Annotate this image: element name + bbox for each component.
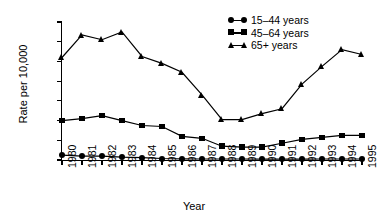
data-point-triangle	[258, 110, 264, 116]
data-point-square	[119, 118, 125, 124]
data-point-square	[199, 136, 205, 142]
legend-item: 45–64 years	[228, 27, 309, 40]
data-point-triangle	[158, 60, 164, 66]
legend-label: 65+ years	[251, 39, 297, 52]
legend-item: 65+ years	[228, 39, 309, 52]
data-point-circle	[219, 156, 225, 162]
data-point-square	[319, 135, 325, 141]
legend-marker-circle-icon	[228, 15, 247, 25]
data-point-circle	[139, 155, 145, 161]
chart-figure: Rate per 10,000 Year 020406080100120140 …	[0, 0, 388, 221]
y-axis-title: Rate per 10,000	[17, 9, 29, 159]
data-point-square	[239, 144, 245, 150]
data-point-square	[259, 144, 265, 150]
data-point-triangle	[278, 105, 284, 111]
data-point-triangle	[338, 46, 344, 52]
data-point-circle	[159, 156, 165, 162]
data-point-triangle	[318, 63, 324, 69]
data-point-triangle	[298, 81, 304, 87]
legend-label: 45–64 years	[251, 27, 309, 40]
data-point-square	[139, 123, 145, 129]
data-point-square	[279, 140, 285, 146]
data-point-circle	[259, 156, 265, 162]
data-point-circle	[199, 156, 205, 162]
data-point-circle	[79, 153, 85, 159]
data-point-triangle	[178, 69, 184, 75]
x-axis-title: Year	[0, 200, 388, 212]
data-point-triangle	[198, 92, 204, 98]
data-point-circle	[119, 154, 125, 160]
series-lines	[62, 22, 362, 161]
data-point-triangle	[98, 36, 104, 42]
data-point-square	[339, 133, 345, 139]
data-point-square	[219, 143, 225, 149]
data-point-square	[159, 124, 165, 130]
legend-marker-square-icon	[228, 28, 247, 38]
data-point-triangle	[58, 54, 64, 60]
data-point-circle	[279, 156, 285, 162]
data-point-square	[359, 133, 365, 139]
data-point-circle	[339, 156, 345, 162]
legend-item: 15–44 years	[228, 14, 309, 27]
x-tick-label: 1995	[367, 145, 378, 168]
data-point-circle	[319, 156, 325, 162]
series-line	[62, 116, 362, 148]
data-point-triangle	[218, 116, 224, 122]
legend-label: 15–44 years	[251, 14, 309, 27]
data-point-square	[79, 116, 85, 122]
data-point-circle	[179, 156, 185, 162]
legend-marker-triangle-icon	[228, 40, 247, 50]
data-point-circle	[99, 153, 105, 159]
data-point-square	[59, 118, 65, 124]
data-point-triangle	[238, 116, 244, 122]
data-point-square	[299, 137, 305, 143]
data-point-triangle	[138, 53, 144, 59]
plot-area: 020406080100120140 198019811982198319841…	[62, 22, 362, 160]
data-point-square	[179, 134, 185, 140]
data-point-square	[99, 113, 105, 119]
chart-legend: 15–44 years45–64 years65+ years	[228, 14, 309, 52]
data-point-triangle	[118, 29, 124, 35]
data-point-triangle	[358, 51, 364, 57]
data-point-circle	[299, 156, 305, 162]
data-point-triangle	[78, 32, 84, 38]
series-line	[62, 32, 362, 120]
series-line	[62, 155, 362, 159]
data-point-circle	[239, 156, 245, 162]
data-point-circle	[359, 156, 365, 162]
